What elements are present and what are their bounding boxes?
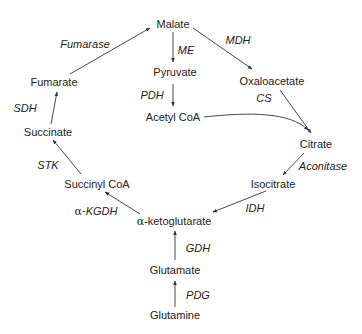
enzyme-sdh: SDH bbox=[13, 102, 36, 114]
enzyme-cs: CS bbox=[256, 92, 271, 104]
enzyme-stk: STK bbox=[37, 159, 58, 171]
node-fumarate: Fumarate bbox=[30, 76, 77, 88]
node-alpha-ketoglutarate-label: -ketoglutarate bbox=[144, 215, 211, 227]
node-malate: Malate bbox=[156, 18, 189, 30]
enzyme-aconitase: Aconitase bbox=[299, 160, 347, 172]
node-glutamate: Glutamate bbox=[150, 264, 201, 276]
enzyme-pdh: PDH bbox=[140, 89, 163, 101]
arrow-fumarate-malate bbox=[70, 28, 150, 74]
enzyme-alpha-kgdh: α-KGDH bbox=[75, 205, 118, 218]
node-alpha-ketoglutarate: α-ketoglutarate bbox=[137, 215, 212, 228]
enzyme-fumarase: Fumarase bbox=[60, 38, 110, 50]
node-pyruvate: Pyruvate bbox=[153, 66, 196, 78]
enzyme-alpha-kgdh-label: KGDH bbox=[86, 205, 118, 217]
node-acetyl-coa: Acetyl CoA bbox=[146, 111, 200, 123]
enzyme-me: ME bbox=[178, 44, 195, 56]
node-succinate: Succinate bbox=[24, 126, 72, 138]
enzyme-pdg: PDG bbox=[186, 289, 210, 301]
node-isocitrate: Isocitrate bbox=[251, 178, 296, 190]
enzyme-idh: IDH bbox=[246, 202, 265, 214]
enzyme-mdh: MDH bbox=[225, 34, 250, 46]
alpha-symbol: α- bbox=[75, 205, 86, 218]
node-glutamine: Glutamine bbox=[150, 309, 200, 321]
enzyme-gdh: GDH bbox=[186, 242, 210, 254]
arrow-succinate-fumarate bbox=[51, 92, 57, 124]
node-citrate: Citrate bbox=[300, 138, 332, 150]
node-succinyl-coa: Succinyl CoA bbox=[64, 178, 129, 190]
node-oxaloacetate: Oxaloacetate bbox=[240, 75, 305, 87]
arrow-oxaloacetate-citrate bbox=[280, 90, 311, 133]
arrow-acetylcoa-citrate bbox=[204, 114, 308, 130]
